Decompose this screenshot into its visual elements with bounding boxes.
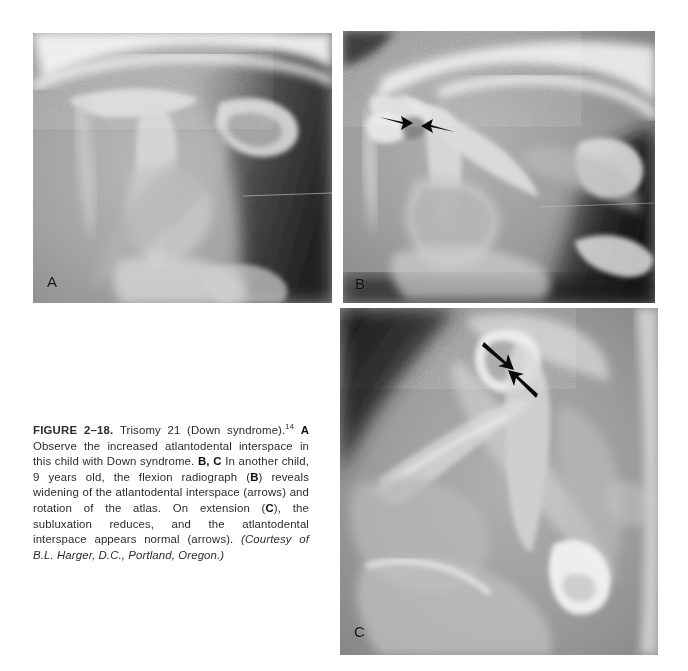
figure-title: Trisomy 21 (Down syndrome)	[120, 424, 282, 436]
radiograph-image-a	[33, 33, 332, 303]
figure-number: FIGURE 2–18.	[33, 424, 113, 436]
radiograph-render-c	[340, 308, 658, 655]
radiograph-panel-c[interactable]: C	[340, 308, 658, 655]
panel-letter-b: B	[355, 276, 366, 291]
caption-label-b-inline: B	[250, 471, 258, 483]
caption-label-bc: B, C	[198, 455, 222, 467]
caption-label-c-inline: C	[266, 502, 274, 514]
radiograph-image-c	[340, 308, 658, 655]
radiograph-panel-a[interactable]: A	[33, 33, 332, 303]
panel-letter-c: C	[354, 624, 365, 639]
figure-reference-superscript: 14	[285, 422, 294, 431]
radiograph-render-a	[33, 33, 332, 303]
figure-page: A	[0, 0, 688, 671]
radiograph-render-b	[343, 31, 655, 303]
figure-caption: FIGURE 2–18. Trisomy 21 (Down syndrome).…	[33, 423, 309, 563]
radiograph-panel-b[interactable]: B	[343, 31, 655, 303]
caption-label-a: A	[301, 424, 309, 436]
panel-letter-a: A	[47, 274, 58, 289]
radiograph-image-b	[343, 31, 655, 303]
